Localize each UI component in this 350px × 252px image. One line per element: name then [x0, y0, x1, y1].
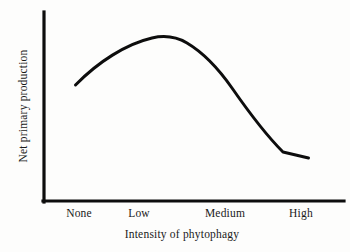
x-tick-label-low: Low: [128, 207, 150, 219]
y-axis-title: Net primary production: [17, 49, 30, 162]
x-axis-title: Intensity of phytophagy: [125, 228, 240, 241]
x-tick-label-none: None: [66, 207, 92, 219]
chart-figure: None Low Medium High Intensity of phytop…: [0, 0, 350, 252]
x-tick-label-medium: Medium: [205, 207, 245, 219]
production-curve: [76, 37, 309, 158]
chart-canvas: None Low Medium High Intensity of phytop…: [0, 0, 350, 252]
x-tick-label-high: High: [289, 207, 313, 220]
